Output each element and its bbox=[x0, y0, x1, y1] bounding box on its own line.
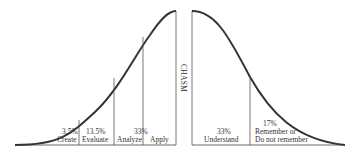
understand-label: Understand bbox=[204, 136, 239, 144]
evaluate-label: Evaluate bbox=[82, 136, 108, 144]
apply-label: Apply bbox=[150, 136, 169, 144]
left-curve bbox=[15, 11, 176, 145]
chasm-label: CHASM bbox=[179, 64, 188, 92]
analyze-label: Analyze bbox=[117, 136, 142, 144]
create-label: Create bbox=[57, 136, 77, 144]
do-not-remember-label: Do not remember bbox=[255, 136, 308, 144]
analyze-apply-percent: 33% bbox=[134, 128, 148, 136]
